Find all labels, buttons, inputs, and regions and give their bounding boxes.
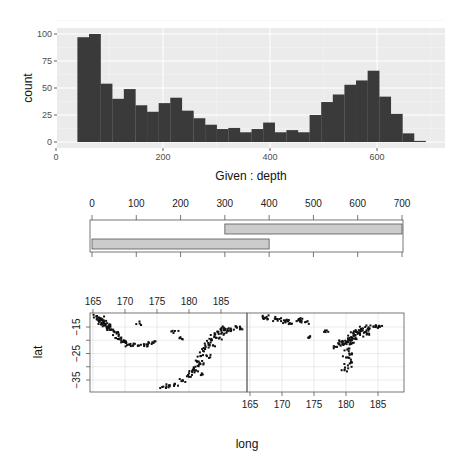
scatter-point	[228, 327, 230, 329]
histogram-bar	[89, 34, 101, 142]
histogram-bar	[170, 98, 182, 142]
scatter-point	[349, 354, 351, 356]
scatter-point	[132, 345, 134, 347]
scatter-point	[201, 360, 203, 362]
given-interval-bar	[92, 239, 269, 249]
scatter-point	[343, 343, 345, 345]
scatter-point	[195, 369, 197, 371]
scatter-point	[284, 321, 286, 323]
scatter-point	[368, 334, 370, 336]
scatter-y-label: lat	[31, 345, 45, 358]
histogram-bar	[321, 102, 333, 142]
scatter-point	[140, 324, 142, 326]
given-tick-label: 100	[128, 198, 145, 209]
y-tick-label: 50	[42, 83, 52, 93]
scatter-point	[101, 319, 103, 321]
bottom-tick-label: 170	[274, 399, 291, 410]
histogram-bar	[344, 85, 356, 142]
scatter-points	[93, 314, 383, 389]
histogram-bar	[286, 130, 298, 142]
scatter-point	[359, 332, 361, 334]
histogram-bar	[135, 105, 147, 142]
scatter-point	[350, 331, 352, 333]
histogram-y-axis: 0255075100	[37, 29, 57, 147]
scatter-point	[98, 323, 100, 325]
scatter-point	[107, 326, 109, 328]
scatter-point	[102, 325, 104, 327]
scatter-point	[124, 340, 126, 342]
scatter-point	[301, 318, 303, 320]
scatter-point	[173, 385, 175, 387]
scatter-point	[110, 329, 112, 331]
scatter-point	[353, 335, 355, 337]
scatter-point	[272, 320, 274, 322]
scatter-point	[199, 362, 201, 364]
scatter-point	[377, 327, 379, 329]
scatter-point	[96, 318, 98, 320]
scatter-point	[280, 320, 282, 322]
histogram-bar	[356, 80, 368, 142]
scatter-point	[362, 336, 364, 338]
scatter-point	[174, 330, 176, 332]
scatter-point	[125, 345, 127, 347]
scatter-point	[369, 324, 371, 326]
scatter-point	[208, 338, 210, 340]
scatter-x-label: long	[236, 437, 259, 451]
scatter-panels: 165170175180185165170175180185−15−25−35 …	[31, 296, 404, 451]
scatter-point	[138, 345, 140, 347]
histogram-bar	[112, 99, 124, 142]
scatter-point	[209, 343, 211, 345]
scatter-point	[362, 330, 364, 332]
scatter-point	[168, 384, 170, 386]
scatter-point	[221, 332, 223, 334]
scatter-point	[225, 332, 227, 334]
scatter-point	[214, 345, 216, 347]
scatter-point	[350, 343, 352, 345]
scatter-point	[299, 318, 301, 320]
scatter-point	[177, 385, 179, 387]
scatter-point	[223, 329, 225, 331]
scatter-point	[268, 314, 270, 316]
scatter-point	[307, 337, 309, 339]
scatter-point	[349, 339, 351, 341]
bottom-tick-label: 165	[242, 399, 259, 410]
scatter-point	[135, 323, 137, 325]
histogram-bar	[77, 37, 89, 142]
x-tick-label: 600	[369, 152, 384, 162]
histogram-bar	[124, 89, 136, 142]
scatter-point	[359, 326, 361, 328]
scatter-point	[199, 351, 201, 353]
scatter-point	[96, 315, 98, 317]
scatter-point	[355, 331, 357, 333]
scatter-point	[188, 370, 190, 372]
scatter-point	[120, 337, 122, 339]
scatter-point	[210, 334, 212, 336]
histogram-bar	[275, 132, 287, 142]
lat-tick-label: −35	[71, 371, 82, 388]
scatter-point	[143, 344, 145, 346]
scatter-point	[349, 337, 351, 339]
scatter-point	[188, 372, 190, 374]
scatter-point	[350, 361, 352, 363]
scatter-point	[354, 338, 356, 340]
scatter-point	[218, 338, 220, 340]
scatter-point	[291, 323, 293, 325]
scatter-point	[347, 341, 349, 343]
scatter-point	[214, 332, 216, 334]
x-tick-label: 400	[262, 152, 277, 162]
given-tick-label: 700	[394, 198, 411, 209]
scatter-point	[342, 341, 344, 343]
scatter-point	[344, 349, 346, 351]
scatter-point	[365, 331, 367, 333]
scatter-point	[351, 366, 353, 368]
given-interval-bar	[225, 224, 402, 234]
top-tick-label: 165	[85, 296, 102, 307]
scatter-point	[93, 316, 95, 318]
given-tick-label: 300	[217, 198, 234, 209]
scatter-point	[220, 328, 222, 330]
scatter-point	[191, 374, 193, 376]
scatter-point	[342, 355, 344, 357]
histogram-panel: 0255075100 0200400600 count Given : dept…	[21, 21, 445, 184]
scatter-point	[210, 341, 212, 343]
scatter-point	[211, 339, 213, 341]
